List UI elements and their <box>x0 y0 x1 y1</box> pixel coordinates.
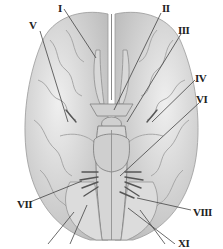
label-cn-xi: XI <box>178 238 189 249</box>
label-cn-iii: III <box>178 25 189 36</box>
label-cn-vi: VI <box>196 94 207 105</box>
label-cn-vii: VII <box>17 199 32 210</box>
label-cn-v: V <box>29 20 36 31</box>
label-cn-ii: II <box>162 3 170 14</box>
label-cn-viii: VIII <box>193 207 212 218</box>
label-cn-i: I <box>58 3 62 14</box>
label-cn-iv: IV <box>195 73 206 84</box>
